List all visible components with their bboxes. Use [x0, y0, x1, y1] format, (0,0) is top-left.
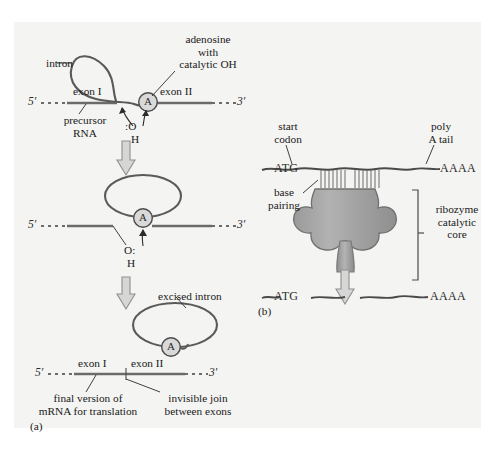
ribozyme-stem: [337, 241, 355, 272]
exon2-label-step1: exon II: [160, 85, 192, 97]
nucleophile-arrowhead-step2: [139, 229, 147, 236]
label-poly-a-tail: poly A tail: [414, 120, 468, 145]
three-prime-label-step1: 3′: [237, 95, 245, 107]
three-prime-label-step3: 3′: [209, 366, 217, 378]
intron-lariat-loop: [71, 56, 148, 105]
cleaved-strand-left-body: [311, 297, 345, 298]
label-base-pairing: base pairing: [258, 186, 310, 211]
exon1-label-step3: exon I: [78, 357, 107, 369]
nucleophile-arrowhead-a1: [119, 107, 126, 114]
leader-final-mrna: [86, 375, 96, 392]
three-prime-label-step2: 3′: [237, 218, 245, 230]
oh-oxygen-step1: :O: [125, 120, 136, 132]
exon1-label-step1: exon I: [73, 85, 102, 97]
five-prime-label-step2: 5′: [28, 218, 36, 230]
label-excised-intron: excised intron: [158, 290, 222, 303]
adenosine-letter-step2: A: [139, 211, 147, 223]
base-pairing-ticks-right: [355, 170, 379, 188]
process-arrow-3: [336, 270, 354, 304]
panel-b-letter: (b): [258, 305, 271, 317]
leader-precursor-rna: [79, 104, 86, 114]
process-arrow-2: [117, 277, 135, 309]
cleaved-strand-right-body: [360, 296, 428, 298]
oh-hydrogen-step2: H: [127, 257, 135, 269]
label-start-codon: start codon: [260, 120, 316, 145]
label-intron: intron: [46, 57, 73, 70]
five-prime-label-step3: 5′: [35, 366, 43, 378]
adenosine-letter-step1: A: [144, 95, 152, 107]
sequence-poly-a-after: AAAA: [430, 289, 466, 304]
adenosine-letter-step3: A: [167, 340, 175, 352]
leader-poly-a-tail: [426, 145, 434, 164]
label-invisible-join: invisible join between exons: [148, 392, 248, 417]
label-adenosine-catalytic-oh: adenosine with catalytic OH: [162, 33, 254, 71]
ribozyme-core-bracket: [412, 190, 418, 280]
sequence-start-codon-after: ATG: [274, 289, 298, 304]
oh-oxygen-step2: O:: [124, 244, 135, 256]
sequence-start-codon: ATG: [274, 161, 298, 176]
five-prime-label-step1: 5′: [28, 95, 36, 107]
label-precursor-rna: precursor RNA: [52, 114, 118, 139]
panel-a-step3-spliced-mrna: [48, 297, 217, 392]
oh-hydrogen-step1: H: [131, 133, 139, 145]
exon2-label-step3: exon II: [131, 357, 163, 369]
leader-invisible-join: [126, 379, 160, 392]
panel-a-letter: (a): [30, 420, 43, 432]
label-ribozyme-catalytic-core: ribozyme catalytic core: [426, 203, 488, 241]
leader-oh-step2: [113, 226, 126, 245]
process-arrow-1: [117, 141, 135, 175]
sequence-poly-a: AAAA: [440, 161, 476, 176]
figure-rna-splicing-ribozyme: intron adenosine with catalytic OH precu…: [0, 0, 495, 454]
base-pairing-ticks-left: [321, 170, 345, 188]
label-final-mrna: final version of mRNA for translation: [34, 392, 142, 417]
